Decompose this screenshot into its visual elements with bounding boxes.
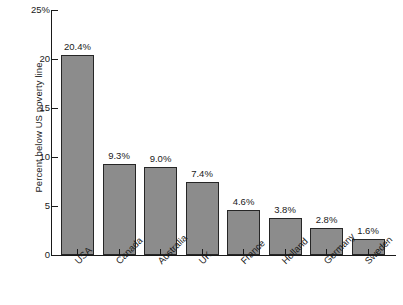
bar-chart: Percent below US poverty line 0510152025… [0, 0, 403, 305]
y-axis-tick [52, 255, 58, 256]
y-axis-title: Percent below US poverty line [33, 38, 44, 218]
x-axis-line [51, 255, 396, 256]
bar-value-label: 20.4% [52, 42, 103, 52]
plot-area: 20.4%9.3%9.0%7.4%4.6%3.8%2.8%1.6% [51, 10, 396, 255]
y-axis-tick-label: 5 [5, 201, 50, 211]
bar [186, 182, 219, 255]
y-axis-tick-label: 25% [5, 5, 50, 15]
bar [61, 55, 94, 255]
bar-value-label: 3.8% [260, 205, 311, 215]
y-axis-tick-label: 20 [5, 54, 50, 64]
y-axis-tick-label: 15 [5, 103, 50, 113]
bar-value-label: 9.0% [135, 154, 186, 164]
y-axis-tick-label: 10 [5, 152, 50, 162]
bar-value-label: 2.8% [301, 215, 352, 225]
bar-value-label: 7.4% [177, 169, 228, 179]
y-axis-tick-label: 0 [5, 250, 50, 260]
